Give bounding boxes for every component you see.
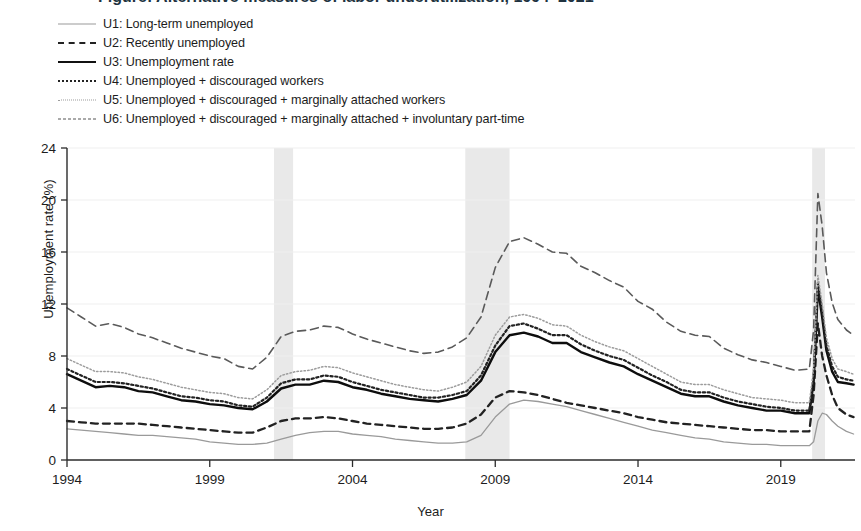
x-axis-title-text: Year — [417, 504, 444, 519]
series-line-u4 — [67, 283, 854, 410]
x-tick-label-2009: 2009 — [480, 472, 510, 487]
figure-root: Figure: Alternative measures of labor un… — [0, 0, 861, 531]
x-axis-title: Year — [0, 502, 861, 520]
chart-canvas: 04812162024199419992004200920142019 — [0, 0, 861, 531]
y-tick-label-4: 4 — [48, 401, 56, 416]
x-tick-label-2014: 2014 — [623, 472, 654, 487]
x-tick-label-1994: 1994 — [52, 472, 83, 487]
gridlines — [67, 148, 855, 408]
series-line-u6 — [67, 194, 854, 371]
series-line-u1 — [67, 400, 854, 446]
y-tick-label-8: 8 — [48, 349, 56, 364]
x-tick-label-2019: 2019 — [766, 472, 796, 487]
plot-area: 04812162024199419992004200920142019 — [0, 0, 861, 531]
y-axis-title: Unemployment rate (%) — [39, 149, 57, 349]
axes — [61, 148, 855, 467]
x-tick-label-1999: 1999 — [195, 472, 225, 487]
x-tick-label-2004: 2004 — [337, 472, 368, 487]
y-axis-title-text: Unemployment rate (%) — [41, 179, 56, 318]
series-line-u5 — [67, 275, 854, 402]
y-tick-label-0: 0 — [48, 453, 56, 468]
series-line-u3 — [67, 288, 854, 413]
series-line-u2 — [67, 324, 854, 433]
